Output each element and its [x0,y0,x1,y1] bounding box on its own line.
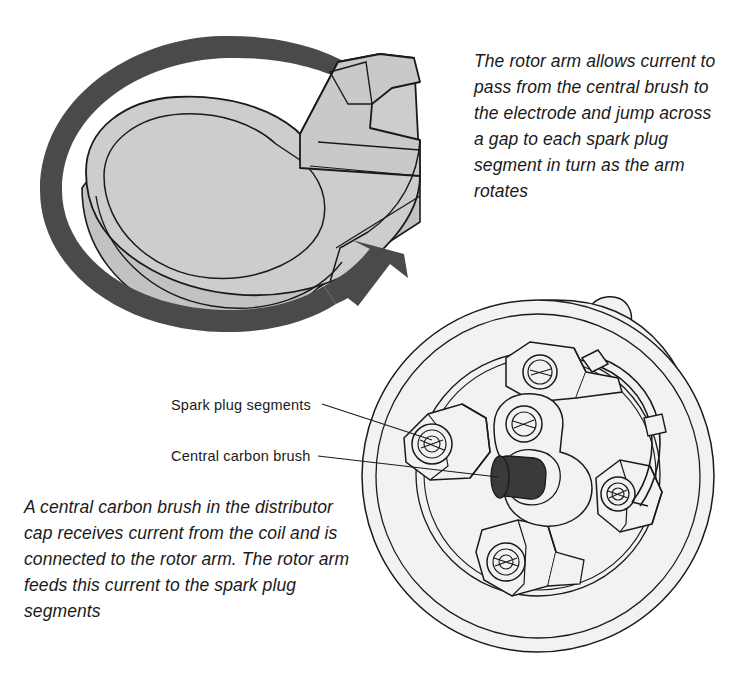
central-carbon-brush [491,456,546,499]
callout-label-central-carbon-brush: Central carbon brush [171,448,310,464]
caption-rotor-arm: The rotor arm allows current to pass fro… [474,48,724,204]
callout-label-spark-plug-segments: Spark plug segments [171,397,311,413]
spark-plug-segment-right [596,460,662,532]
caption-carbon-brush: A central carbon brush in the distributo… [24,494,354,624]
illustration-page: The rotor arm allows current to pass fro… [0,0,732,680]
